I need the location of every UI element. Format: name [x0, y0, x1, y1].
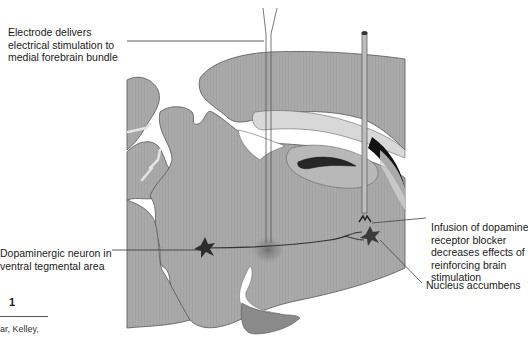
label-infusion: Infusion of dopamine receptor blocker de… [431, 221, 528, 284]
label-electrode-line-1: Electrode delivers [8, 26, 118, 39]
label-electrode-line-3: medial forebrain bundle [8, 51, 118, 64]
label-infusion-line-4: reinforcing brain [431, 259, 528, 272]
label-infusion-line-3: decreases effects of [431, 246, 528, 259]
label-electrode-line-2: electrical stimulation to [8, 39, 118, 52]
figure-divider [0, 316, 48, 317]
stimulation-glow [250, 235, 286, 265]
label-dopaminergic-neuron: Dopaminergic neuron in ventral tegmental… [0, 247, 111, 272]
label-dopaminergic-line-2: ventral tegmental area [0, 260, 111, 273]
label-infusion-line-2: receptor blocker [431, 234, 528, 247]
cerebellum-lobe-upper [127, 77, 159, 150]
label-dopaminergic-line-1: Dopaminergic neuron in [0, 247, 111, 260]
figure-number: 1 [9, 296, 15, 308]
citation-fragment: ar, Kelley, [0, 324, 39, 334]
label-infusion-line-1: Infusion of dopamine [431, 221, 528, 234]
label-electrode: Electrode delivers electrical stimulatio… [8, 26, 118, 64]
label-nucleus-accumbens: Nucleus accumbens [426, 279, 521, 292]
